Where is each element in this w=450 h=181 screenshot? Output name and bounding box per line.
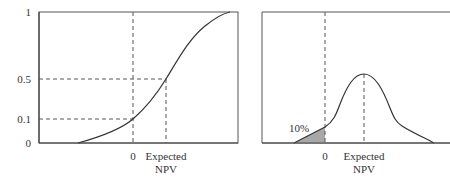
- pdf-x-label-npv: NPV: [353, 163, 375, 175]
- cdf-frame: [39, 12, 238, 143]
- y-label-0: 0: [26, 137, 32, 149]
- npv-distribution-figure: 1 0.5 0.1 0 0 Expected NPV 10% 0 Expecte…: [0, 0, 450, 181]
- y-label-0-1: 0.1: [17, 113, 31, 125]
- pdf-chart: 10% 0 Expected NPV: [262, 12, 450, 175]
- cdf-curve: [78, 12, 230, 143]
- y-label-1: 1: [26, 6, 32, 18]
- x-label-zero: 0: [130, 150, 136, 162]
- pdf-x-label-expected: Expected: [344, 150, 385, 162]
- pdf-x-label-zero: 0: [322, 150, 328, 162]
- shaded-label: 10%: [289, 122, 309, 134]
- x-label-expected: Expected: [146, 150, 187, 162]
- x-label-npv: NPV: [155, 163, 177, 175]
- cdf-chart: 1 0.5 0.1 0 0 Expected NPV: [17, 6, 238, 175]
- y-label-0-5: 0.5: [17, 73, 31, 85]
